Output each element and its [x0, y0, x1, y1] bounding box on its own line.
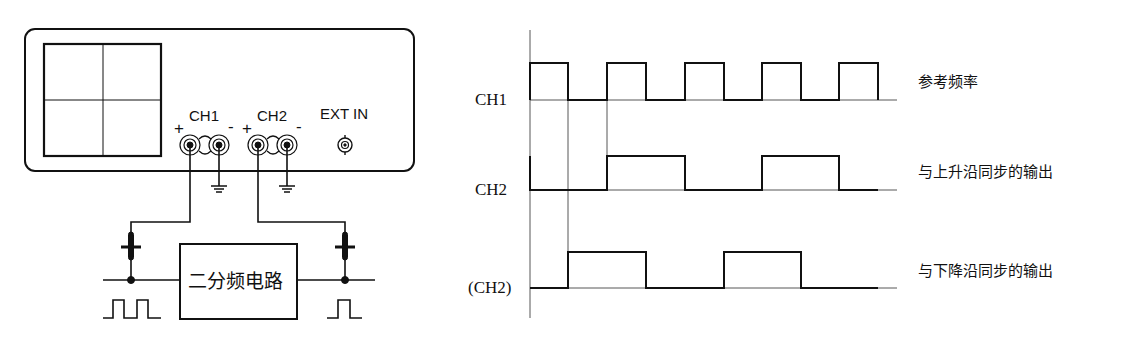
- waveform-ch2-falling: [530, 252, 878, 288]
- ext-in-connector: [338, 135, 352, 155]
- ground-icon-ch2: [279, 186, 295, 192]
- wiring: [103, 145, 375, 280]
- ext-in-label: EXT IN: [320, 106, 368, 121]
- ch1-plus-sign: +: [174, 120, 184, 137]
- ch2-minus-sign: -: [296, 118, 302, 135]
- row-desc-ch2: 与上升沿同步的输出: [918, 165, 1053, 180]
- row-label-ch2-falling: (CH2): [468, 279, 511, 296]
- ch1-connector: [180, 135, 229, 155]
- timing-waveforms: [530, 63, 878, 288]
- waveform-ch2-rising: [530, 156, 878, 190]
- ch1-minus-sign: -: [228, 118, 234, 135]
- output-waveform-icon: [327, 300, 362, 318]
- divider-circuit-label: 二分频电路: [188, 272, 283, 291]
- row-label-ch2: CH2: [475, 181, 507, 198]
- ch2-plus-sign: +: [242, 120, 252, 137]
- waveform-ch1: [530, 63, 878, 100]
- row-desc-ch2-falling: 与下降沿同步的输出: [918, 264, 1053, 279]
- ch2-label: CH2: [257, 108, 287, 123]
- timing-axes: [530, 30, 897, 318]
- row-label-ch1: CH1: [475, 91, 507, 108]
- ch2-connector: [248, 135, 297, 155]
- ground-icon-ch1: [211, 186, 227, 192]
- ch1-label: CH1: [189, 108, 219, 123]
- input-waveform-icon: [103, 300, 161, 318]
- row-desc-ch1: 参考频率: [918, 75, 978, 90]
